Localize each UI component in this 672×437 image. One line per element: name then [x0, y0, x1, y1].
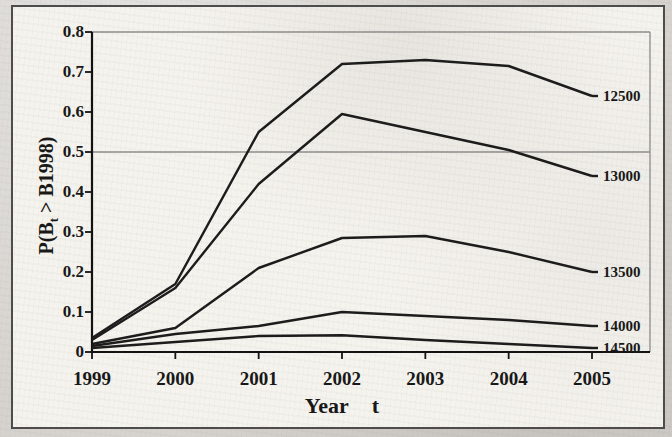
- y-axis-tick-label-0.2: 0.2: [38, 264, 84, 280]
- y-axis-title-sub: t: [46, 218, 61, 222]
- scanned-page: P(Bt > B1998) Year t 00.10.20.30.40.50.6…: [0, 0, 672, 437]
- y-axis-tick-label-0.1: 0.1: [38, 304, 84, 320]
- series-label-12500: 12500: [603, 89, 641, 104]
- series-label-13000: 13000: [603, 169, 641, 184]
- x-axis-tick-label-2002: 2002: [307, 369, 377, 389]
- x-axis-tick-label-2000: 2000: [140, 369, 210, 389]
- y-axis-tick-label-0: 0: [38, 344, 84, 360]
- x-axis-tick-label-2005: 2005: [557, 369, 627, 389]
- series-label-14000: 14000: [603, 319, 641, 334]
- x-axis-title: Year t: [192, 393, 492, 419]
- y-axis-tick-label-0.8: 0.8: [38, 24, 84, 40]
- x-axis-tick-label-1999: 1999: [57, 369, 127, 389]
- x-axis-tick-label-2004: 2004: [474, 369, 544, 389]
- y-axis-tick-label-0.5: 0.5: [38, 144, 84, 160]
- x-axis-tick-label-2001: 2001: [224, 369, 294, 389]
- x-axis-tick-label-2003: 2003: [390, 369, 460, 389]
- data-line-14500: [92, 335, 592, 348]
- series-label-14500: 14500: [603, 341, 641, 356]
- y-axis-tick-label-0.3: 0.3: [38, 224, 84, 240]
- series-label-13500: 13500: [603, 265, 641, 280]
- y-axis-tick-label-0.7: 0.7: [38, 64, 84, 80]
- data-line-12500: [92, 60, 592, 338]
- y-axis-tick-label-0.6: 0.6: [38, 104, 84, 120]
- data-line-13000: [92, 114, 592, 340]
- y-axis-tick-label-0.4: 0.4: [38, 184, 84, 200]
